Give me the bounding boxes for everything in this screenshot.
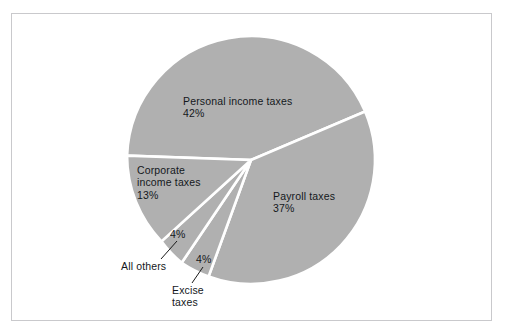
slice-label-personal-income-taxes: Personal income taxes 42% — [183, 95, 292, 120]
slice-label-excise-name: Excise taxes — [172, 284, 204, 309]
slice-label-all-others-name: All others — [121, 260, 166, 272]
slice-label-payroll-name: Payroll taxes — [273, 190, 335, 202]
pie-chart-figure: Personal income taxes 42% Corporate inco… — [0, 0, 506, 334]
slice-label-excise-percent: 4% — [196, 253, 211, 265]
slice-label-corporate-name-line2: income taxes — [137, 176, 201, 188]
slice-label-personal-name: Personal income taxes — [183, 95, 292, 107]
slice-label-corporate-income-taxes: Corporate income taxes 13% — [137, 164, 201, 201]
slice-label-excise-name-line2: taxes — [172, 296, 204, 308]
slice-label-payroll-taxes: Payroll taxes 37% — [273, 190, 335, 215]
pie-chart-canvas — [0, 0, 506, 334]
slice-label-personal-percent: 42% — [183, 107, 292, 119]
slice-label-corporate-percent: 13% — [137, 189, 201, 201]
slice-label-excise-name-line1: Excise — [172, 284, 204, 296]
slice-label-corporate-name-line1: Corporate — [137, 164, 201, 176]
slice-label-payroll-percent: 37% — [273, 202, 335, 214]
slice-label-all-others-percent: 4% — [170, 228, 185, 240]
